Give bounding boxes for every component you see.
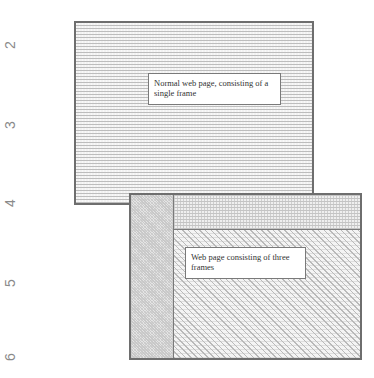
ruler-number-3: 3 [3, 117, 17, 133]
three-frame-label: Web page consisting of three frames [185, 247, 306, 279]
ruler-number-4: 4 [3, 195, 17, 211]
main-frame: Web page consisting of three frames [174, 230, 360, 358]
three-frame-page: Web page consisting of three frames [129, 193, 362, 360]
single-frame-label-text: Normal web page, consisting of a single … [154, 78, 268, 98]
top-frame [174, 195, 360, 230]
ruler-number-2: 2 [3, 37, 17, 53]
single-frame-label: Normal web page, consisting of a single … [148, 73, 281, 105]
three-frame-label-text: Web page consisting of three frames [191, 252, 289, 272]
ruler-number-6: 6 [3, 349, 17, 365]
left-frame [131, 195, 174, 358]
single-frame-page: Normal web page, consisting of a single … [74, 21, 314, 205]
ruler-number-5: 5 [3, 275, 17, 291]
